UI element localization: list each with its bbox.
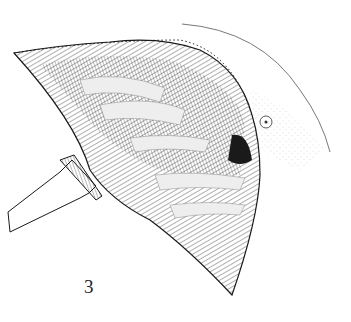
surgical-drawing [0, 0, 351, 322]
figure-number: 3 [84, 276, 94, 298]
anatomical-illustration: 3 [0, 0, 351, 322]
